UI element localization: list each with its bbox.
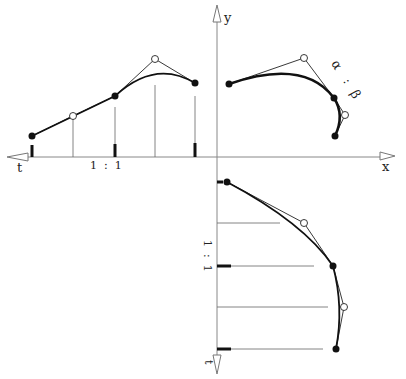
alpha-label: α (328, 57, 345, 72)
control-polygon (229, 58, 345, 136)
control-point-open (301, 220, 308, 227)
t-axis-label-left: t (17, 160, 23, 175)
ratio-label-horizontal: 1 : 1 (90, 159, 122, 172)
x-axis-label: x (382, 159, 390, 174)
ratio-label-vertical: 1 : 1 (201, 240, 214, 272)
control-point-filled (29, 133, 36, 140)
control-point-open (342, 112, 349, 119)
y-axis-arrow-up-icon (213, 5, 221, 22)
left-panel-tx (29, 56, 199, 158)
control-polygon (227, 182, 344, 349)
ratio-colon-label: : (340, 76, 354, 86)
t-axis-label-bottom: t (202, 360, 215, 365)
control-point-open (152, 56, 159, 63)
control-point-filled (330, 263, 337, 270)
y-axis-label: y (223, 10, 232, 25)
control-point-filled (224, 179, 231, 186)
control-point-filled (112, 93, 119, 100)
control-point-filled (333, 346, 340, 353)
control-point-filled (331, 95, 338, 102)
control-point-open (301, 55, 308, 62)
beta-label: β (347, 87, 364, 101)
curve (227, 182, 339, 349)
t-axis-arrow-down-icon (213, 355, 221, 374)
bottom-right-panel-yt (217, 179, 348, 353)
bezier-parameterization-diagram: y x t t 1 : 1 1 : 1 α : β (0, 0, 406, 379)
control-point-filled (192, 80, 199, 87)
control-point-open (70, 113, 77, 120)
control-point-filled (332, 133, 339, 140)
control-point-filled (226, 81, 233, 88)
control-point-open (341, 304, 348, 311)
curve (32, 74, 195, 136)
